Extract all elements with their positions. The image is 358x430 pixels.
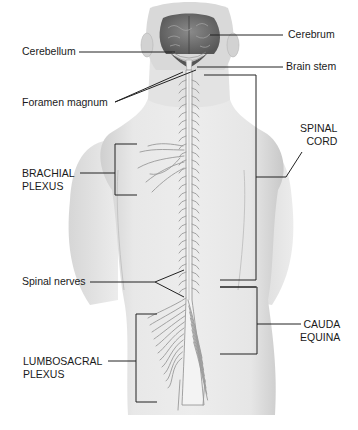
label-foramen-magnum: Foramen magnum xyxy=(22,96,108,109)
label-spinal-nerves: Spinal nerves xyxy=(22,275,86,288)
label-brain-stem: Brain stem xyxy=(286,60,336,73)
label-brachial-plexus: BRACHIAL PLEXUS xyxy=(22,167,75,193)
cerebrum-shape xyxy=(160,14,220,55)
label-spinal-cord: SPINAL CORD xyxy=(300,122,337,148)
label-cerebrum: Cerebrum xyxy=(288,28,335,41)
label-cauda-equina: CAUDA EQUINA xyxy=(300,318,340,344)
label-lumbosacral-plexus: LUMBOSACRAL PLEXUS xyxy=(23,355,102,381)
label-cerebellum: Cerebellum xyxy=(22,45,76,58)
left-ear xyxy=(141,33,153,57)
right-ear xyxy=(227,33,239,57)
